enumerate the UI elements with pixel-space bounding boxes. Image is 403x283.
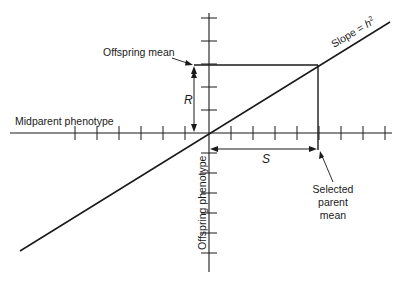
selected-parent-label-1: Selected: [313, 183, 354, 195]
selected-parent-label-3: mean: [320, 209, 346, 221]
y-axis-label: Offspring phenotype: [196, 155, 208, 250]
selected-parent-label-2: parent: [318, 196, 348, 208]
offspring-mean-label: Offspring mean: [103, 46, 175, 58]
response-label: R: [184, 93, 193, 107]
response-arrow-bottom-head: [191, 124, 197, 132]
x-axis-label: Midparent phenotype: [15, 115, 114, 127]
differential-label: S: [262, 152, 270, 166]
offspring-mean-pointer-head: [185, 60, 193, 66]
differential-arrow-left-head: [210, 146, 218, 152]
slope-prefix: Slope =: [329, 19, 368, 49]
differential-arrow-right-head: [309, 146, 317, 152]
response-to-selection-diagram: Offspring mean Midparent phenotype Offsp…: [0, 0, 403, 283]
selected-parent-pointer: [322, 156, 333, 182]
response-arrow-top-head: [191, 66, 197, 74]
